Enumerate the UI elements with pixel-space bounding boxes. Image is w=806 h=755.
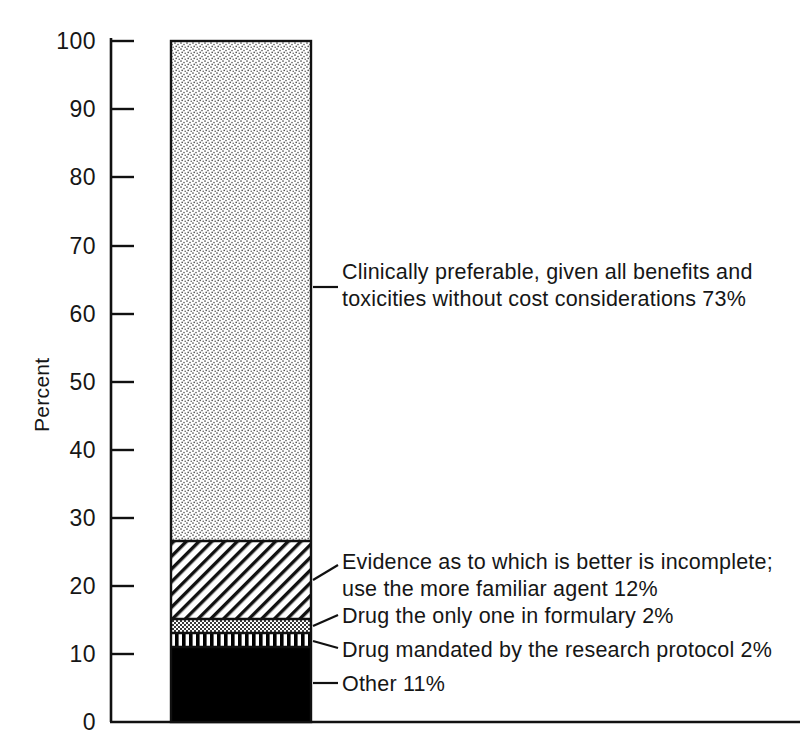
y-tick-label-30: 30 bbox=[36, 507, 96, 530]
y-tick-label-10: 10 bbox=[36, 643, 96, 666]
bar-segment-evidence-incomplete bbox=[171, 541, 311, 619]
y-tick-label-20: 20 bbox=[36, 575, 96, 598]
y-tick-label-90: 90 bbox=[36, 98, 96, 121]
bar-segment-only-formulary bbox=[171, 619, 311, 633]
callout-evidence-incomplete: Evidence as to which is better is incomp… bbox=[342, 549, 773, 603]
y-tick-label-100: 100 bbox=[36, 30, 96, 53]
callout-research-protocol: Drug mandated by the research protocol 2… bbox=[342, 637, 772, 664]
y-axis-title: Percent bbox=[30, 358, 54, 432]
leader-only-formulary bbox=[313, 615, 338, 626]
callout-other: Other 11% bbox=[342, 671, 445, 698]
y-tick-label-60: 60 bbox=[36, 303, 96, 326]
y-tick-label-0: 0 bbox=[36, 711, 96, 734]
callout-clinically-preferable: Clinically preferable, given all benefit… bbox=[342, 259, 753, 313]
callout-leader-lines bbox=[313, 287, 338, 683]
bar-segment-research-protocol bbox=[171, 633, 311, 647]
bar-segment-other bbox=[171, 647, 311, 722]
bar-segment-clinically-preferable bbox=[171, 41, 311, 541]
stacked-bar-chart: 100 90 80 70 60 50 40 30 20 10 0 Percent… bbox=[0, 0, 806, 755]
callout-only-formulary: Drug the only one in formulary 2% bbox=[342, 603, 674, 630]
y-tick-label-40: 40 bbox=[36, 439, 96, 462]
leader-research-protocol bbox=[313, 641, 338, 648]
y-tick-label-80: 80 bbox=[36, 166, 96, 189]
y-tick-label-70: 70 bbox=[36, 235, 96, 258]
leader-evidence-incomplete bbox=[313, 565, 338, 580]
y-axis-ticks bbox=[111, 41, 134, 654]
